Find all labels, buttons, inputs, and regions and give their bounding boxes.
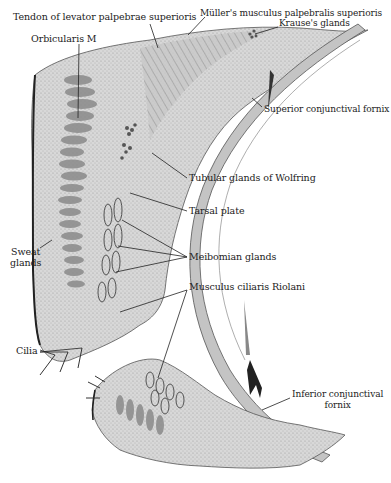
lower-eyelid [86, 359, 345, 468]
label-cilia: Cilia [16, 346, 38, 356]
label-sweat-glands: Sweat glands [10, 246, 41, 268]
label-orbicularis: Orbicularis M [31, 34, 97, 44]
label-ciliaris-riolani: Musculus ciliaris Riolani [189, 282, 305, 292]
label-tarsal-plate: Tarsal plate [189, 206, 244, 216]
label-tendon-levator: Tendon of levator palpebrae superioris [13, 12, 196, 22]
label-meibomian-glands: Meibomian glands [189, 252, 276, 262]
eyelid-section-diagram: Tendon of levator palpebrae superioris O… [0, 0, 391, 483]
label-wolfring-glands: Tubular glands of Wolfring [189, 173, 316, 183]
label-muller-muscle: Müller's musculus palpebralis superioris [200, 8, 382, 18]
label-superior-fornix: Superior conjunctival fornix [264, 104, 389, 114]
label-krause-glands: Krause's glands [279, 18, 350, 28]
label-inferior-fornix: Inferior conjunctival fornix [292, 389, 383, 411]
